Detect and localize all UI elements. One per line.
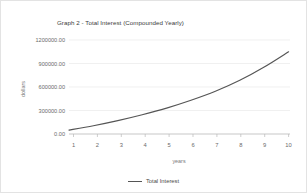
x-tick-label-5: 5 <box>167 142 170 148</box>
legend-swatch-total-interest <box>128 181 142 182</box>
chart-legend: Total Interest <box>1 178 306 184</box>
x-tick-label-3: 3 <box>120 142 123 148</box>
y-tick-labels: 1200000.00 900000.00 600000.00 300000.00… <box>35 37 65 137</box>
x-axis-title: years <box>172 158 185 164</box>
x-tick-label-7: 7 <box>215 142 218 148</box>
legend-label-total-interest: Total Interest <box>146 178 179 184</box>
x-tick-label-1: 1 <box>72 142 75 148</box>
x-tick-label-4: 4 <box>144 142 148 148</box>
y-axis-title: dollars <box>20 81 26 97</box>
x-tick-label-6: 6 <box>191 142 194 148</box>
x-tick-label-2: 2 <box>96 142 99 148</box>
y-tick-label-300000: 300000.00 <box>39 108 65 114</box>
y-tick-label-0: 0.00 <box>54 131 65 137</box>
y-tick-label-1200000: 1200000.00 <box>35 37 65 43</box>
x-tick-label-8: 8 <box>239 142 242 148</box>
chart-card: Graph 2 - Total Interest (Compounded Yea… <box>0 0 307 193</box>
x-tick-labels: 1 2 3 4 5 6 7 8 9 10 <box>72 142 292 148</box>
x-tick-label-9: 9 <box>263 142 266 148</box>
x-tick-marks <box>74 134 289 137</box>
y-tick-label-600000: 600000.00 <box>39 84 65 90</box>
chart-plot-area: 1200000.00 900000.00 600000.00 300000.00… <box>1 1 307 193</box>
y-tick-label-900000: 900000.00 <box>39 61 65 67</box>
x-tick-label-10: 10 <box>285 142 291 148</box>
y-gridlines <box>69 40 290 111</box>
